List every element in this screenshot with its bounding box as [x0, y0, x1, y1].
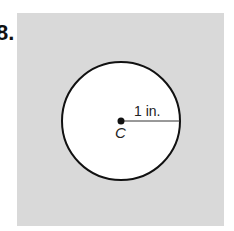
center-label: C	[115, 124, 126, 141]
radius-label: 1 in.	[134, 103, 160, 119]
circle-diagram: 1 in. C	[0, 0, 234, 231]
